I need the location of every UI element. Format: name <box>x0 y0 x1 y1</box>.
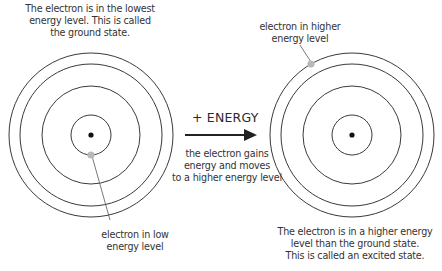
caption-line: The electron is in a higher energy <box>270 226 440 238</box>
nucleus <box>349 132 354 137</box>
electron-low-label: electron in low energy level <box>90 229 180 253</box>
caption-line: This is called an excited state. <box>270 250 440 262</box>
label-line: electron in low <box>90 229 180 241</box>
label-line: energy level <box>90 241 180 253</box>
excited-state-caption: The electron is in a higher energy level… <box>270 226 440 262</box>
leader-line <box>92 156 110 220</box>
caption-line: the electron gains <box>162 148 292 160</box>
leader-line <box>300 45 311 62</box>
label-line: energy level <box>245 33 355 45</box>
caption-line: energy and moves <box>162 160 292 172</box>
electron-high-label: electron in higher energy level <box>245 21 355 45</box>
caption-line: The electron is in the lowest <box>10 3 170 15</box>
ground-state-caption: The electron is in the lowest energy lev… <box>10 3 170 39</box>
nucleus <box>88 132 93 137</box>
caption-line: level than the ground state. <box>270 238 440 250</box>
electron-low <box>87 151 94 158</box>
electron-high <box>307 60 314 67</box>
caption-line: to a higher energy level <box>162 172 292 184</box>
caption-line: energy level. This is called <box>10 15 170 27</box>
energy-label: + ENERGY <box>192 110 259 125</box>
label-line: electron in higher <box>245 21 355 33</box>
caption-line: the ground state. <box>10 27 170 39</box>
energy-arrow <box>185 129 257 141</box>
transition-caption: the electron gains energy and moves to a… <box>162 148 292 184</box>
